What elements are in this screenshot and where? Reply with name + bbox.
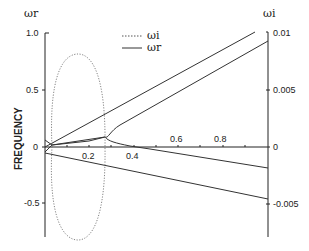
- right-tick-label: 0.005: [273, 85, 296, 95]
- right-axis: ωi 0.01 0.005 0 -0.005: [263, 7, 299, 237]
- omega-r-middle-branch: [45, 41, 268, 145]
- x-tick-label: 0.2: [82, 151, 95, 161]
- right-tick-label: 0: [273, 142, 278, 152]
- x-tick-label: 0.6: [170, 134, 183, 144]
- x-tick-label: 0.8: [214, 134, 227, 144]
- left-axis-symbol: ωr: [24, 7, 39, 20]
- omega-r-lower-branch: [45, 153, 268, 199]
- right-axis-symbol: ωi: [263, 7, 276, 20]
- omega-r-curves: [45, 32, 268, 199]
- left-tick-label: -0.5: [24, 198, 40, 208]
- left-tick-label: 0.5: [26, 85, 39, 95]
- right-tick-label: -0.005: [273, 199, 299, 209]
- left-axis: ωr 1.0 0.5 0 -0.5: [24, 7, 49, 237]
- legend: ωi ωr: [122, 29, 162, 54]
- y-axis-title: FREQUENCY: [13, 107, 24, 170]
- legend-label-omega-r: ωr: [147, 41, 162, 54]
- right-tick-label: 0.01: [273, 28, 291, 38]
- left-tick-label: 0: [33, 142, 38, 152]
- x-axis: 0.2 0.4 0.6 0.8: [45, 134, 268, 161]
- chart: ωr 1.0 0.5 0 -0.5 ωi 0.01 0.005 0 -0.005…: [0, 0, 309, 251]
- left-tick-label: 1.0: [26, 28, 39, 38]
- x-tick-label: 0.4: [126, 151, 139, 161]
